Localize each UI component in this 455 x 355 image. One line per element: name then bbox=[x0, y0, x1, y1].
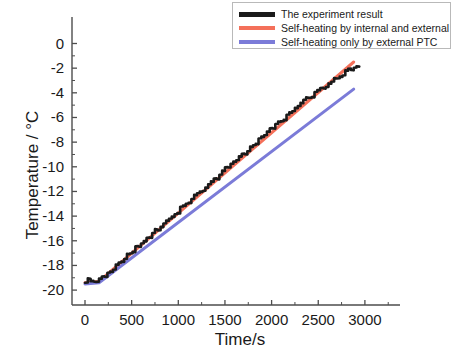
legend-label-experiment: The experiment result bbox=[281, 9, 383, 20]
y-tick-label: -14 bbox=[24, 207, 64, 224]
x-tick-label: 3000 bbox=[340, 311, 390, 328]
y-tick-label: -8 bbox=[24, 133, 64, 150]
legend-label-external-ptc: Self-heating only by external PTC bbox=[281, 37, 437, 48]
legend-item-experiment: The experiment result bbox=[239, 7, 383, 21]
y-tick-label: -20 bbox=[24, 281, 64, 298]
legend-label-internal-external: Self-heating by internal and external bbox=[281, 23, 449, 34]
y-tick-label: -16 bbox=[24, 232, 64, 249]
y-tick-label: -12 bbox=[24, 182, 64, 199]
legend-item-internal-external: Self-heating by internal and external bbox=[239, 21, 449, 35]
x-tick-label: 2500 bbox=[293, 311, 343, 328]
legend-item-external-ptc: Self-heating only by external PTC bbox=[239, 35, 437, 49]
legend-swatch-experiment bbox=[239, 12, 275, 17]
y-tick-label: -2 bbox=[24, 59, 64, 76]
legend-swatch-external-ptc bbox=[239, 40, 275, 44]
y-tick-label: -6 bbox=[24, 108, 64, 125]
x-tick-label: 1000 bbox=[153, 311, 203, 328]
y-tick-label: -10 bbox=[24, 158, 64, 175]
x-axis-title: Time/s bbox=[150, 330, 330, 350]
x-tick-label: 500 bbox=[107, 311, 157, 328]
chart-plot-area bbox=[0, 0, 455, 355]
legend-swatch-internal-external bbox=[239, 26, 275, 30]
x-tick-label: 0 bbox=[60, 311, 110, 328]
chart-figure: Temperature / °C Time/s 0-2-4-6-8-10-12-… bbox=[0, 0, 455, 355]
y-tick-label: 0 bbox=[24, 35, 64, 52]
y-tick-label: -18 bbox=[24, 256, 64, 273]
x-tick-label: 1500 bbox=[200, 311, 250, 328]
chart-legend: The experiment result Self-heating by in… bbox=[232, 2, 451, 49]
x-tick-label: 2000 bbox=[247, 311, 297, 328]
y-tick-label: -4 bbox=[24, 84, 64, 101]
